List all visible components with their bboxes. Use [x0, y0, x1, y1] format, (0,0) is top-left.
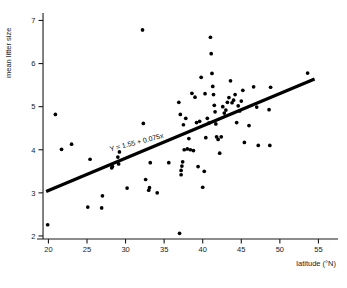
data-point	[201, 185, 205, 189]
data-point	[148, 161, 152, 165]
data-point	[155, 191, 159, 195]
data-point	[54, 113, 58, 117]
data-point	[224, 108, 228, 112]
x-tick-label: 35	[160, 245, 168, 254]
data-point	[239, 99, 243, 103]
data-point	[205, 116, 209, 120]
data-point	[198, 119, 202, 123]
data-point	[70, 142, 74, 146]
y-axis-title: mean litter size	[4, 28, 13, 78]
data-point	[88, 157, 92, 161]
data-point	[100, 206, 104, 210]
data-point	[148, 186, 152, 190]
x-tick-label: 30	[121, 245, 129, 254]
y-tick-label: 6	[31, 59, 35, 68]
data-point	[181, 160, 185, 164]
data-point	[214, 122, 218, 126]
data-point	[268, 144, 272, 148]
data-point	[212, 104, 216, 108]
data-point	[86, 205, 90, 209]
data-point	[199, 76, 203, 80]
data-point	[210, 72, 214, 76]
data-point	[111, 165, 115, 169]
data-point	[167, 161, 171, 165]
data-point	[221, 105, 225, 109]
y-tick-label: 3	[31, 189, 35, 198]
data-point	[211, 85, 215, 89]
x-tick-label: 20	[44, 245, 52, 254]
data-point	[178, 232, 182, 236]
x-tick-label: 40	[199, 245, 207, 254]
data-point	[235, 121, 239, 125]
data-points-group	[46, 28, 310, 235]
data-point	[269, 85, 273, 89]
data-point	[207, 121, 211, 125]
data-point	[203, 92, 207, 96]
data-point	[180, 164, 184, 168]
data-point	[179, 169, 183, 173]
data-point	[141, 122, 145, 126]
data-point	[219, 135, 223, 139]
data-point	[212, 93, 216, 97]
chart-canvas: 2345672025303540455055latitude (°N)mean …	[0, 0, 347, 288]
data-point	[196, 165, 200, 169]
y-tick-label: 7	[31, 16, 35, 25]
data-point	[238, 109, 242, 113]
data-point	[60, 147, 64, 151]
data-point	[306, 71, 310, 75]
data-point	[187, 137, 191, 141]
data-point	[218, 151, 222, 155]
data-point	[204, 136, 208, 140]
data-point	[202, 169, 206, 173]
data-point	[243, 141, 247, 145]
y-tick-label: 4	[31, 146, 35, 155]
x-axis-title: latitude (°N)	[296, 259, 336, 268]
x-tick-label: 50	[276, 245, 284, 254]
data-point	[125, 186, 129, 190]
data-point	[190, 91, 194, 95]
data-point	[116, 155, 120, 159]
data-point	[118, 150, 122, 154]
data-point	[192, 149, 196, 153]
regression-equation-label: Y = 1.55 + 0.075x	[109, 132, 165, 153]
y-tick-label: 2	[31, 232, 35, 241]
data-point	[247, 124, 251, 128]
data-point	[182, 123, 186, 127]
data-point	[117, 162, 121, 166]
data-point	[177, 100, 181, 104]
data-point	[256, 144, 260, 148]
data-point	[227, 96, 231, 100]
x-tick-label: 45	[237, 245, 245, 254]
x-tick-label: 55	[314, 245, 322, 254]
y-tick-label: 5	[31, 102, 35, 111]
data-point	[216, 138, 220, 142]
data-point	[209, 35, 213, 39]
data-point	[232, 98, 236, 102]
data-point	[267, 108, 271, 112]
data-point	[209, 52, 213, 56]
data-point	[184, 116, 188, 120]
data-point	[255, 105, 259, 109]
data-point	[178, 113, 182, 117]
data-point	[252, 85, 256, 89]
data-point	[179, 173, 183, 177]
data-point	[213, 110, 217, 114]
x-tick-label: 25	[83, 245, 91, 254]
data-point	[193, 95, 197, 99]
scatter-plot-figure: 2345672025303540455055latitude (°N)mean …	[0, 0, 347, 288]
data-point	[236, 104, 240, 108]
data-point	[101, 194, 105, 198]
data-point	[229, 79, 233, 83]
data-point	[141, 28, 145, 32]
data-point	[233, 93, 237, 97]
data-point	[144, 178, 148, 182]
data-point	[241, 88, 245, 92]
data-point	[46, 223, 50, 227]
data-point	[226, 100, 230, 104]
